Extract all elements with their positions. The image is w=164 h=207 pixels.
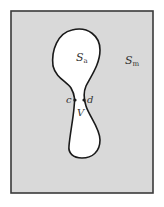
label-c: c bbox=[66, 94, 72, 105]
point-c-marker bbox=[73, 98, 76, 101]
label-d: d bbox=[87, 94, 93, 105]
diagram: Sa Sm c d V bbox=[0, 0, 164, 207]
point-d-marker bbox=[82, 98, 85, 101]
